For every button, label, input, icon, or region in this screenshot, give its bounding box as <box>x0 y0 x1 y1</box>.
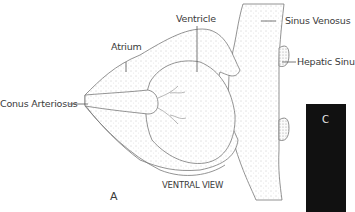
hepatic-sinus-upper <box>279 46 289 66</box>
panel-letter: A <box>110 190 117 203</box>
label-ventricle: Ventricle <box>176 13 216 24</box>
label-sinus-venosus: Sinus Venosus <box>285 15 350 26</box>
hepatic-sinus-lower <box>279 118 289 140</box>
label-conus-arteriosus: Conus Arteriosus <box>0 98 78 109</box>
label-ventral-view: VENTRAL VIEW <box>162 180 223 190</box>
sinus-venosus-shape <box>229 4 284 200</box>
label-hepatic-sinus: Hepatic Sinu <box>297 56 355 67</box>
label-atrium: Atrium <box>111 41 142 52</box>
overlay-box: C <box>306 104 346 212</box>
overlay-box-text: C <box>322 114 329 125</box>
